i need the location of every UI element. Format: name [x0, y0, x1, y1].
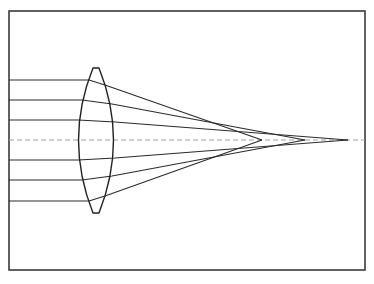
- light-ray: [9, 80, 262, 140]
- light-ray: [9, 140, 348, 160]
- lens-ray-diagram: [0, 0, 374, 284]
- light-ray: [9, 120, 348, 140]
